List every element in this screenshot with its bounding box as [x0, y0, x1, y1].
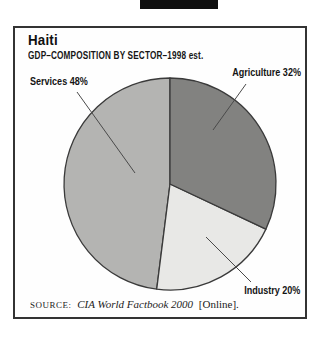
chart-box: Haiti GDP–COMPOSITION BY SECTOR–1998 est… — [13, 26, 307, 319]
label-industry: Industry 20% — [244, 284, 300, 296]
scan-artifact-bar — [140, 0, 218, 9]
source-work: CIA World Factbook 2000 — [77, 298, 193, 310]
pie-slice-services — [64, 78, 170, 289]
label-agriculture: Agriculture 32% — [232, 66, 301, 78]
source-prefix: SOURCE: — [30, 300, 72, 310]
source-note: SOURCE: CIA World Factbook 2000 [Online]… — [30, 298, 239, 310]
label-services: Services 48% — [30, 75, 88, 87]
source-suffix: [Online]. — [199, 298, 239, 310]
